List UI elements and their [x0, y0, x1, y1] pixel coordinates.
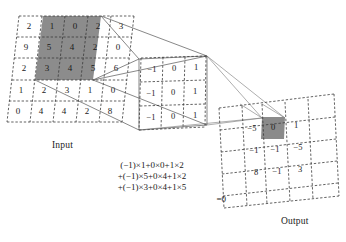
kernel-cell-2-0: −1 [146, 112, 155, 122]
kernel-plane: −1 0 1 −1 0 1 −1 0 1 [139, 56, 206, 130]
input-cell-3-3: 1 [88, 85, 93, 95]
input-cell-2-1: 3 [45, 63, 50, 73]
input-label: Input [52, 140, 73, 150]
output-vline-3 [285, 102, 290, 202]
input-cell-2-0: 2 [22, 63, 27, 73]
output-cell-0-2: 1 [294, 120, 298, 130]
kernel-cell-0-1: 0 [172, 63, 176, 73]
kernel-cell-2-2: 1 [193, 110, 197, 120]
input-cell-0-0: 2 [27, 21, 32, 31]
output-cell-1-2: −5 [293, 142, 302, 152]
kernel-cell-1-0: −1 [146, 88, 155, 98]
output-cell-1-0: −1 [249, 145, 258, 155]
output-vline-1 [242, 106, 247, 206]
input-cell-3-2: 3 [65, 85, 70, 95]
kernel-hline-2 [140, 104, 205, 106]
kernel-cell-0-2: 1 [194, 62, 198, 72]
input-cell-0-3: 2 [96, 21, 101, 31]
out-proj-6 [262, 104, 285, 118]
output-cell-0-0: −5 [247, 123, 256, 133]
input-cell-2-2: 4 [68, 63, 73, 73]
formula-line-3: +(−1)×3+0×4+1×5 [62, 182, 242, 193]
input-cell-1-2: 4 [70, 42, 75, 52]
input-cell-4-4: 8 [108, 106, 113, 116]
output-cell-2-1: −1 [272, 166, 281, 176]
output-cell-1-1: −1 [270, 144, 279, 154]
input-cell-1-4: 0 [116, 42, 121, 52]
input-cell-4-0: 0 [16, 106, 21, 116]
output-vline-5 [334, 94, 339, 196]
kernel-cell-2-1: 0 [171, 111, 175, 121]
output-hline-0 [219, 94, 334, 108]
kernel-vline-2 [183, 57, 185, 128]
input-cell-1-0: 9 [24, 42, 29, 52]
kernel-vline-3 [205, 56, 206, 127]
output-label: Output [281, 216, 309, 226]
input-cell-0-1: 1 [50, 21, 55, 31]
output-cell-2-2: 3 [298, 164, 302, 174]
input-cell-4-1: 4 [39, 106, 44, 116]
input-cell-4-2: 4 [62, 106, 67, 116]
formula-line-2: +(−1)×5+0×4+1×2 [62, 171, 242, 182]
input-cell-1-1: 5 [47, 42, 52, 52]
formula-line-4: =0 [62, 194, 242, 205]
kernel-cell-1-1: 0 [171, 87, 175, 97]
output-vline-4 [308, 99, 313, 199]
kernel-vline-1 [161, 57, 163, 129]
input-cell-2-4: 6 [114, 63, 119, 73]
kernel-cell-1-2: 1 [193, 86, 197, 96]
input-cell-0-2: 0 [73, 21, 78, 31]
input-cell-2-3: 5 [91, 63, 96, 73]
kernel-hline-1 [140, 80, 205, 82]
output-cell-0-1: 0 [271, 122, 275, 132]
formula-line-1: (−1)×1+0×0+1×2 [62, 160, 242, 171]
input-cell-0-4: 3 [119, 21, 124, 31]
input-cell-3-1: 2 [42, 85, 47, 95]
input-vline-5 [122, 16, 134, 122]
convolution-formula: (−1)×1+0×0+1×2 +(−1)×5+0×4+1×2 +(−1)×3+0… [62, 160, 242, 205]
diagram-canvas: 2 1 0 2 3 9 5 4 2 0 2 3 4 5 6 1 2 3 1 0 … [0, 0, 346, 242]
input-cell-1-3: 2 [93, 42, 98, 52]
out-proj-3 [139, 118, 262, 130]
out-proj-5 [240, 104, 262, 118]
output-cell-2-0: 8 [254, 167, 258, 177]
convolution-diagram: 2 1 0 2 3 9 5 4 2 0 2 3 4 5 6 1 2 3 1 0 … [0, 0, 346, 242]
input-cell-3-4: 0 [111, 85, 116, 95]
input-cell-3-0: 1 [19, 85, 24, 95]
out-proj-1 [207, 56, 262, 118]
kernel-cell-0-0: −1 [147, 64, 156, 74]
input-cell-4-3: 2 [85, 106, 90, 116]
